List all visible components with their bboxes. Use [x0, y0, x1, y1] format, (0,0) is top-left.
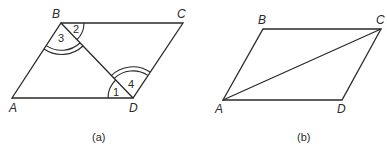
diagonal-ac	[223, 29, 381, 100]
angle-label-1: 1	[113, 86, 119, 98]
vertex-label-d: D	[337, 102, 346, 116]
caption-b: (b)	[297, 131, 310, 143]
vertex-label-c: C	[177, 7, 186, 21]
figure-b: B C A D (b)	[214, 13, 385, 143]
caption-a: (a)	[92, 131, 105, 143]
vertex-label-b: B	[52, 7, 60, 21]
vertex-label-a: A	[8, 101, 17, 115]
vertex-label-c: C	[376, 13, 385, 27]
vertex-label-b: B	[258, 13, 266, 27]
angle-3-arc-inner	[46, 43, 80, 50]
diagram-canvas: B C A D 2 3 1 4 (a) B C A D (b)	[0, 0, 387, 156]
angle-label-2: 2	[73, 23, 79, 35]
angle-label-3: 3	[58, 32, 64, 44]
angle-label-4: 4	[128, 78, 134, 90]
figure-a: B C A D 2 3 1 4 (a)	[8, 7, 186, 143]
vertex-label-a: A	[214, 102, 223, 116]
diagonal-bd	[61, 23, 133, 98]
vertex-label-d: D	[129, 101, 138, 115]
